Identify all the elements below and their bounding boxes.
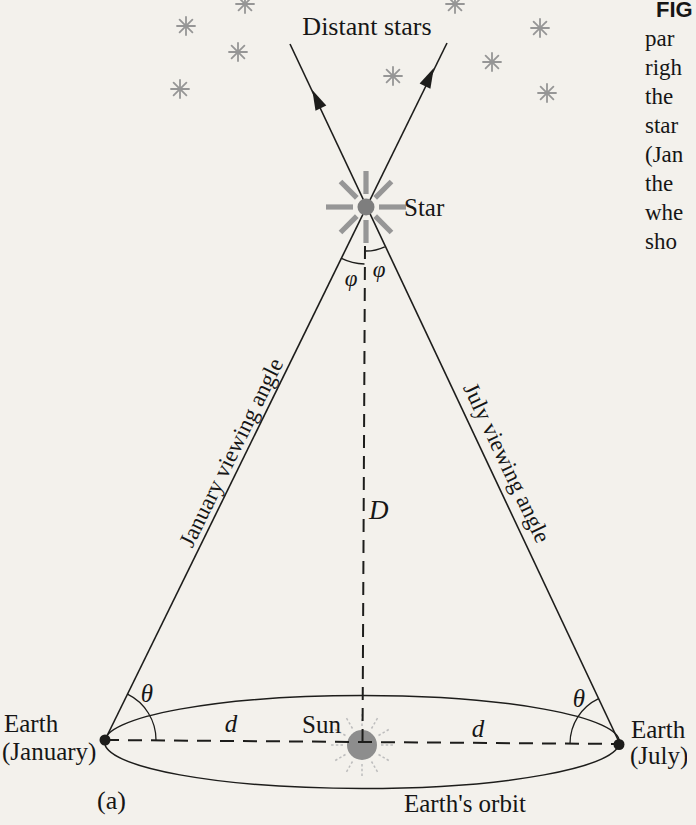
earths-orbit-label: Earth's orbit	[404, 790, 526, 817]
distant-star-icon	[531, 19, 549, 37]
distant-star-icon	[538, 84, 556, 102]
distant-star-icon	[177, 17, 195, 35]
caption-line: sho	[645, 227, 696, 256]
july-viewing-angle-label: July viewing angle	[458, 379, 555, 547]
earth-january-label-line1: Earth	[4, 710, 59, 737]
january-sight-line	[105, 43, 447, 740]
earth-january-label-line2: (January)	[2, 738, 96, 766]
caption-line: whe	[645, 198, 696, 227]
sun-label: Sun	[302, 711, 341, 738]
figure-caption-column: FIG par righ the star (Jan the whe sho	[645, 0, 696, 256]
phi-left-label: φ	[345, 266, 358, 291]
earth-july-label-line1: Earth	[631, 716, 686, 743]
distant-star-icon	[446, 0, 464, 13]
caption-line: FIG	[645, 0, 696, 24]
arrowhead-right-icon	[420, 68, 434, 89]
distance-D-label: D	[368, 495, 389, 525]
distance-D-dashed-line	[363, 246, 366, 745]
d-left-label: d	[225, 710, 238, 737]
distant-star-icon	[236, 0, 254, 13]
caption-line: righ	[645, 53, 696, 82]
panel-a-label: (a)	[97, 786, 126, 815]
arrowhead-left-icon	[312, 90, 326, 111]
distant-star-icon	[483, 53, 501, 71]
distant-stars-label: Distant stars	[302, 12, 431, 41]
earth-january-dot	[100, 735, 111, 746]
caption-line: the	[645, 82, 696, 111]
d-right-label: d	[472, 715, 485, 742]
theta-left-label: θ	[141, 680, 153, 707]
distant-star-icon	[384, 67, 402, 85]
phi-left-arc	[341, 258, 365, 264]
caption-line: (Jan	[645, 140, 696, 169]
caption-line: par	[645, 24, 696, 53]
distant-star-icon	[171, 80, 189, 98]
phi-right-arc	[366, 247, 385, 251]
july-sight-line	[290, 44, 620, 744]
star-label: Star	[404, 194, 445, 221]
star-icon	[358, 199, 375, 216]
earth-july-dot	[614, 739, 625, 750]
phi-right-label: φ	[373, 257, 386, 282]
distant-star-icon	[229, 43, 247, 61]
january-viewing-angle-label: January viewing angle	[174, 354, 288, 551]
earth-july-label-line2: (July)	[630, 742, 687, 770]
caption-line: star	[645, 111, 696, 140]
caption-line: the	[645, 169, 696, 198]
theta-right-label: θ	[573, 685, 585, 712]
